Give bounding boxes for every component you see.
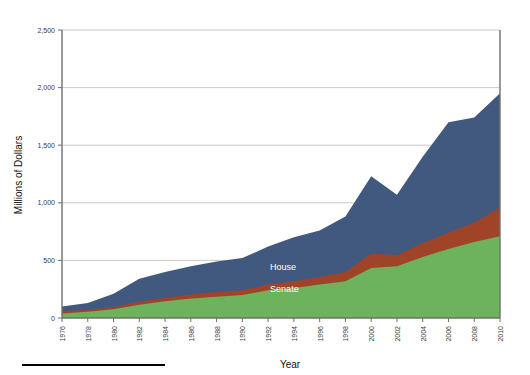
x-tick-label: 2004 bbox=[420, 326, 427, 342]
x-tick-label: 1984 bbox=[162, 326, 169, 342]
footer-rule bbox=[22, 364, 165, 366]
series-label-senate: Senate bbox=[270, 284, 299, 294]
x-tick-label: 1988 bbox=[214, 326, 221, 342]
x-tick-label: 2006 bbox=[445, 326, 452, 342]
x-tick-label: 2010 bbox=[497, 326, 504, 342]
x-tick-label: 1994 bbox=[291, 326, 298, 342]
y-axis-title: Millions of Dollars bbox=[13, 136, 24, 214]
x-tick-label: 2000 bbox=[368, 326, 375, 342]
x-tick-label: 1998 bbox=[342, 326, 349, 342]
x-tick-label: 1982 bbox=[136, 326, 143, 342]
x-tick-label: 1986 bbox=[188, 326, 195, 342]
y-tick-label: 500 bbox=[43, 257, 55, 264]
chart-figure: 1976197819801982198419861988199019921994… bbox=[0, 0, 530, 375]
x-tick-label: 1990 bbox=[239, 326, 246, 342]
x-tick-label: 1992 bbox=[265, 326, 272, 342]
y-tick-label: 2,500 bbox=[37, 27, 55, 34]
x-tick-label: 1976 bbox=[59, 326, 66, 342]
x-tick-label: 1980 bbox=[111, 326, 118, 342]
series-label-total: Total bbox=[270, 227, 289, 237]
y-tick-label: 2,000 bbox=[37, 84, 55, 91]
x-tick-label: 2002 bbox=[394, 326, 401, 342]
series-label-house: House bbox=[270, 262, 296, 272]
x-axis-title: Year bbox=[280, 359, 301, 370]
stacked-area-chart: 1976197819801982198419861988199019921994… bbox=[0, 0, 530, 375]
y-tick-label: 1,500 bbox=[37, 142, 55, 149]
y-tick-label: 1,000 bbox=[37, 199, 55, 206]
x-tick-label: 2008 bbox=[471, 326, 478, 342]
y-tick-label: 0 bbox=[51, 315, 55, 322]
x-tick-label: 1996 bbox=[317, 326, 324, 342]
x-tick-label: 1978 bbox=[85, 326, 92, 342]
